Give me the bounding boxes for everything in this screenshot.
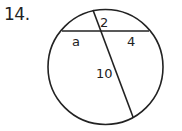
circle-diagram: 2 a 4 10 <box>0 0 182 131</box>
slanted-chord <box>93 10 133 117</box>
label-bottom-segment: 10 <box>96 66 113 81</box>
label-top-segment: 2 <box>100 15 108 30</box>
label-left-segment: a <box>72 34 80 49</box>
label-right-segment: 4 <box>127 34 135 49</box>
